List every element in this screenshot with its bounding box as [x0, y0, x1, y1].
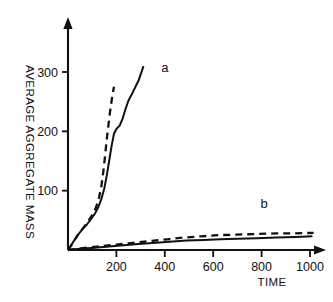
series-annotation-b: b [260, 196, 267, 211]
chart-background [0, 0, 333, 302]
x-axis-title: TIME [257, 276, 286, 288]
y-axis-title: AVERAGE AGGREGATE MASS [24, 65, 36, 239]
y-tick-label: 200 [37, 125, 58, 139]
chart-figure: 2004006008001000 100200300 ab TIME AVERA… [0, 0, 333, 302]
x-tick-label: 600 [203, 260, 224, 274]
y-tick-label: 300 [37, 66, 58, 80]
series-annotation-a: a [161, 60, 169, 75]
y-tick-label: 100 [37, 184, 58, 198]
x-tick-label: 400 [154, 260, 175, 274]
x-tick-label: 800 [251, 260, 272, 274]
line-chart: 2004006008001000 100200300 ab TIME AVERA… [0, 0, 333, 302]
x-tick-label: 1000 [296, 260, 324, 274]
x-tick-label: 200 [106, 260, 127, 274]
